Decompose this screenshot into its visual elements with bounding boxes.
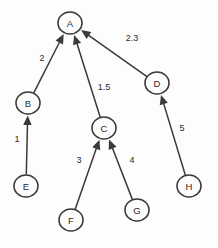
edge-weight-f-c: 3 [76,155,81,165]
node-label-h: H [186,181,193,192]
edge-weight-h-d: 5 [179,123,184,133]
edge-weight-c-a: 1.5 [98,82,111,92]
node-label-d: D [154,78,161,89]
graph-node-f[interactable]: F [59,209,83,231]
graph-node-g[interactable]: G [125,199,149,221]
graph-node-d[interactable]: D [145,72,169,94]
graph-node-c[interactable]: C [92,117,116,139]
graph-node-h[interactable]: H [177,175,201,197]
arrowhead-icon-d-a [81,30,91,39]
graph-diagram: ABCDEFGH 21.52.31345 [0,0,218,248]
arrowhead-icon-c-a [73,35,81,45]
arrowhead-icon-e-b [23,116,31,126]
edge-weight-d-a: 2.3 [126,33,139,43]
graph-canvas: ABCDEFGH 21.52.31345 [0,0,218,248]
graph-node-a[interactable]: A [58,12,82,34]
node-label-a: A [67,18,74,29]
node-label-g: G [133,205,140,216]
edge-line-g-c [112,146,132,199]
edge-line-b-a [34,40,60,92]
arrowhead-icon-f-c [92,140,100,150]
node-label-f: F [68,215,74,226]
node-label-c: C [101,123,108,134]
node-label-e: E [23,181,29,192]
edge-line-h-d [163,102,185,175]
nodes-layer: ABCDEFGH [14,12,201,231]
node-label-b: B [25,98,31,109]
edge-weight-g-c: 4 [129,155,134,165]
graph-node-b[interactable]: B [16,92,40,114]
edge-line-e-b [26,122,27,174]
graph-node-e[interactable]: E [14,175,38,197]
edge-weight-e-b: 1 [14,134,19,144]
arrowhead-icon-h-d [160,95,168,105]
edge-line-c-a [76,42,100,117]
edge-weight-b-a: 2 [39,53,44,63]
